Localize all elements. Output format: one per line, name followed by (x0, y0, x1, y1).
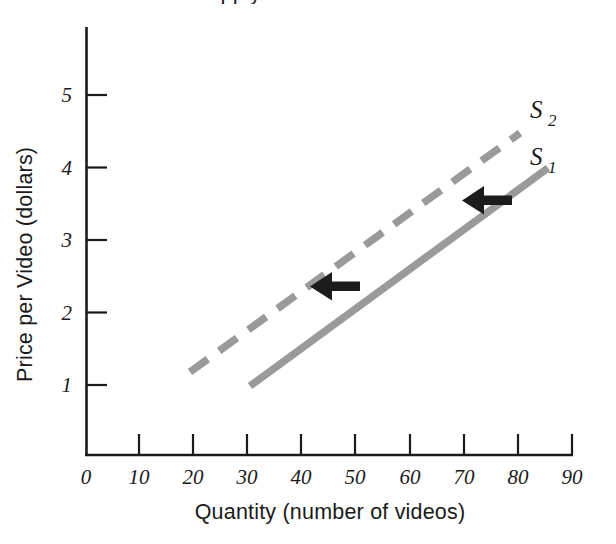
x-tick-label-50: 50 (345, 465, 367, 489)
y-tick-label-2: 2 (62, 301, 73, 325)
x-tick-label-0: 0 (81, 465, 92, 489)
x-tick-label-20: 20 (183, 465, 205, 489)
x-tick-label-30: 30 (236, 465, 259, 489)
x-axis-title: Quantity (number of videos) (195, 500, 466, 524)
y-tick-label-3: 3 (61, 228, 73, 252)
x-tick-label-10: 10 (129, 465, 151, 489)
y-tick-label-5: 5 (62, 83, 73, 107)
supply-shift-figure: Decrease in Supply 5 4 3 2 1 Price per V… (0, 0, 616, 544)
supply-curve-s2 (190, 133, 520, 372)
supply-shift-chart: 5 4 3 2 1 Price per Video (dollars) 0 10… (0, 0, 616, 544)
x-tick-label-60: 60 (400, 465, 422, 489)
curve-label-s1-subscript: 1 (548, 158, 557, 177)
y-axis: 5 4 3 2 1 Price per Video (dollars) (13, 27, 107, 456)
curve-label-s2: S 2 (530, 96, 557, 130)
x-tick-label-90: 90 (562, 465, 584, 489)
y-axis-title: Price per Video (dollars) (13, 147, 37, 382)
y-tick-label-4: 4 (62, 156, 73, 180)
curve-label-s2-subscript: 2 (548, 111, 557, 130)
x-tick-label-70: 70 (454, 465, 476, 489)
curve-label-s2-letter: S (530, 96, 543, 123)
x-tick-label-40: 40 (291, 465, 313, 489)
y-tick-label-1: 1 (62, 373, 73, 397)
curve-label-s1-letter: S (530, 143, 543, 170)
x-tick-label-80: 80 (508, 465, 530, 489)
x-axis: 0 10 20 30 40 50 60 70 80 90 Quantity (n… (81, 434, 583, 524)
supply-curves (190, 133, 548, 386)
